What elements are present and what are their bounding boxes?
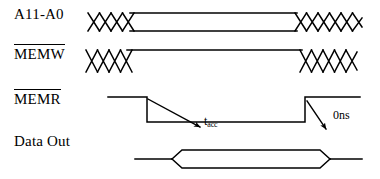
signal-label-memw: MEMW (14, 44, 65, 63)
dataout-valid-top (172, 150, 330, 159)
annotation-arrows (148, 99, 326, 129)
dataout-valid-bottom (172, 159, 330, 168)
signal-label-memr: MEMR (14, 89, 61, 108)
zero-ns-arrow (307, 101, 326, 129)
waveform-addr (88, 13, 362, 31)
waveform-memr (108, 97, 360, 122)
waveform-dataout (135, 150, 362, 168)
addr-crosshatch-right (295, 13, 362, 31)
timing-diagram: A11-A0 MEMW MEMR Data Out tacc 0ns (0, 0, 380, 179)
waveform-memw (86, 50, 357, 72)
memr-pulse-path (108, 97, 360, 122)
signal-label-dataout: Data Out (14, 133, 70, 150)
signal-label-addr: A11-A0 (14, 6, 64, 23)
annotation-zero-ns: 0ns (333, 108, 350, 123)
annotation-tacc-subscript: acc (207, 120, 217, 129)
memw-crosshatch-right (300, 50, 357, 72)
addr-crosshatch-left (88, 13, 134, 31)
annotation-tacc: tacc (204, 114, 217, 129)
tacc-arrow (148, 99, 200, 127)
memw-crosshatch-left (86, 50, 132, 72)
addr-valid-region (130, 13, 297, 31)
